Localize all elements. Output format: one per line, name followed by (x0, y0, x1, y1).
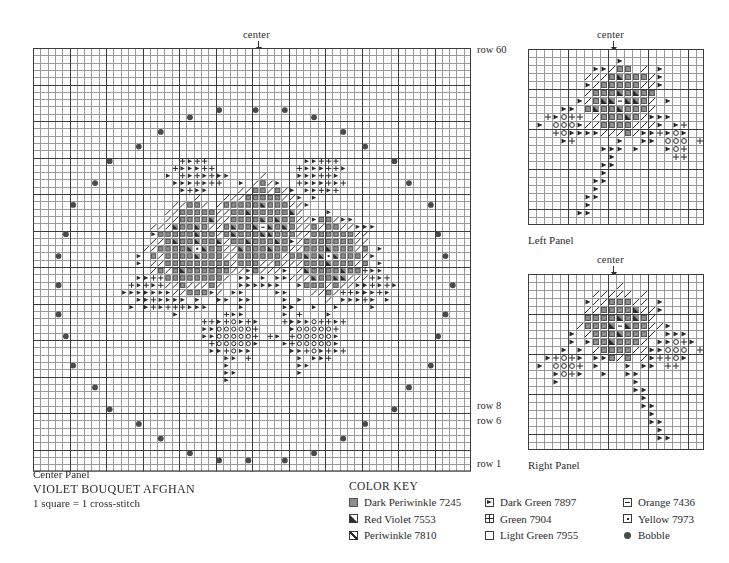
center-label-left-panel: center (597, 29, 624, 40)
key-item-dark-green: Dark Green 7897 (485, 495, 623, 509)
key-label: Red Violet 7553 (364, 512, 436, 526)
key-item-red-violet: Red Violet 7553 (349, 512, 485, 526)
color-key-column-3: Orange 7436 Yellow 7973 Bobble (623, 495, 723, 542)
center-label-center-panel: center (243, 29, 270, 40)
key-label: Periwinkle 7810 (364, 528, 436, 542)
pattern-page: center row 60 row 8 row 6 row 1 Center P… (0, 0, 729, 563)
right-panel-label: Right Panel (528, 459, 580, 471)
key-label: Dark Green 7897 (500, 495, 576, 509)
row-tick-60: row 60 (477, 44, 506, 55)
scale-note: 1 square = 1 cross-stitch (33, 497, 140, 509)
orange-symbol-icon (623, 498, 632, 507)
dark-green-symbol-icon (485, 498, 494, 507)
color-key-column-2: Dark Green 7897 Green 7904 Light Green 7… (485, 495, 623, 542)
left-panel-chart (528, 49, 704, 225)
yellow-symbol-icon (623, 514, 632, 523)
key-item-green: Green 7904 (485, 512, 623, 526)
key-label: Dark Periwinkle 7245 (364, 495, 461, 509)
center-panel-label: Center Panel (33, 468, 90, 480)
center-arrow-icon-center-panel (258, 41, 259, 48)
light-green-symbol-icon (485, 531, 494, 540)
center-label-right-panel: center (597, 254, 624, 265)
row-tick-1: row 1 (477, 458, 501, 469)
color-key-column-1: Dark Periwinkle 7245 Red Violet 7553 Per… (349, 495, 485, 542)
periwinkle-symbol-icon (349, 531, 358, 540)
green-symbol-icon (485, 514, 494, 523)
color-key-columns: Dark Periwinkle 7245 Red Violet 7553 Per… (349, 495, 724, 542)
key-item-light-green: Light Green 7955 (485, 528, 623, 542)
key-item-yellow: Yellow 7973 (623, 512, 723, 526)
row-tick-6: row 6 (477, 415, 501, 426)
key-item-periwinkle: Periwinkle 7810 (349, 528, 485, 542)
dark-periwinkle-symbol-icon (349, 498, 358, 507)
key-label: Light Green 7955 (500, 528, 578, 542)
color-key-heading: COLOR KEY (349, 480, 724, 492)
key-label: Bobble (638, 528, 670, 542)
key-label: Green 7904 (500, 512, 552, 526)
red-violet-symbol-icon (349, 514, 358, 523)
bobble-symbol-icon (623, 531, 632, 540)
row-tick-8: row 8 (477, 400, 501, 411)
right-panel-chart (528, 274, 704, 450)
left-panel-label: Left Panel (528, 234, 574, 246)
center-panel-chart (33, 48, 471, 472)
center-arrow-icon-right-panel (613, 266, 614, 273)
page-title: VIOLET BOUQUET AFGHAN (33, 482, 195, 497)
key-label: Yellow 7973 (638, 512, 694, 526)
key-item-bobble: Bobble (623, 528, 723, 542)
color-key: COLOR KEY Dark Periwinkle 7245 Red Viole… (349, 480, 724, 542)
key-label: Orange 7436 (638, 495, 695, 509)
key-item-orange: Orange 7436 (623, 495, 723, 509)
key-item-dark-periwinkle: Dark Periwinkle 7245 (349, 495, 485, 509)
center-arrow-icon-left-panel (613, 41, 614, 48)
